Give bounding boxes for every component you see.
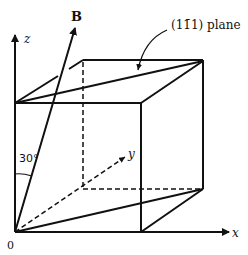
cubic-lattice-diagram: z x y 0 B 30° (11̄1) plane [0, 0, 248, 255]
vector-b-label: B [71, 9, 82, 24]
angle-label: 30° [19, 152, 39, 165]
z-axis-label: z [23, 32, 31, 46]
cube [15, 60, 203, 232]
field-vector-b [15, 28, 75, 232]
x-axis-label: x [232, 226, 239, 240]
y-axis [15, 157, 125, 232]
plane-1-bar1-1 [15, 61, 203, 232]
origin-label: 0 [7, 239, 14, 252]
angle-arc [15, 174, 32, 176]
plane-leader-arrow [138, 30, 167, 70]
plane-label: (11̄1) plane [171, 18, 241, 32]
y-axis-label: y [127, 147, 135, 161]
